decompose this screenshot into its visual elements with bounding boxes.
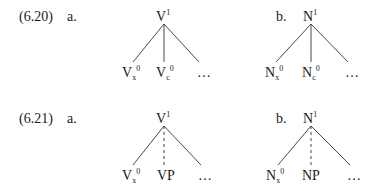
node-sub: x bbox=[275, 73, 279, 82]
tree-leaf: VP bbox=[157, 169, 175, 183]
edge-620b-right bbox=[311, 24, 348, 62]
subexample-label-a: a. bbox=[67, 112, 77, 126]
edge-620a-right bbox=[164, 24, 199, 62]
tree-leaf: NP bbox=[302, 169, 320, 183]
node-sup: 0 bbox=[136, 64, 140, 73]
node-sub: x bbox=[132, 73, 136, 82]
node-base: … bbox=[345, 65, 359, 80]
subexample-label-b: b. bbox=[276, 10, 287, 24]
node-sup: 1 bbox=[313, 8, 317, 17]
node-sub: c bbox=[312, 73, 316, 82]
edge-620b-left bbox=[276, 24, 311, 62]
node-base: V bbox=[156, 65, 166, 80]
tree-leaf: … bbox=[345, 66, 359, 80]
node-sup: 0 bbox=[136, 167, 140, 176]
node-sub: x bbox=[132, 176, 136, 185]
node-sup: 1 bbox=[166, 8, 170, 17]
tree-leaf: … bbox=[347, 169, 361, 183]
tree-leaf: Nc0 bbox=[302, 66, 320, 82]
node-base: … bbox=[197, 65, 211, 80]
node-base: … bbox=[347, 168, 361, 183]
edge-620a-left bbox=[133, 24, 164, 62]
subexample-label-b: b. bbox=[276, 112, 287, 126]
node-base: N bbox=[265, 65, 275, 80]
tree-leaf: Vx0 bbox=[122, 66, 140, 82]
edge-621a-right bbox=[164, 126, 201, 165]
node-sub: x bbox=[276, 176, 280, 185]
node-base: V bbox=[156, 9, 166, 24]
node-base: VP bbox=[157, 168, 175, 183]
node-sup: 1 bbox=[313, 110, 317, 119]
edge-621b-left bbox=[278, 126, 311, 165]
tree-root: V1 bbox=[156, 10, 170, 26]
edge-621b-right bbox=[311, 126, 350, 165]
example-number: (6.20) bbox=[19, 10, 53, 24]
node-sup: 0 bbox=[280, 167, 284, 176]
tree-root: N1 bbox=[303, 112, 317, 128]
node-base: N bbox=[302, 65, 312, 80]
subexample-label-a: a. bbox=[67, 10, 77, 24]
node-base: N bbox=[303, 111, 313, 126]
tree-root: V1 bbox=[156, 112, 170, 128]
tree-leaf: Nx0 bbox=[266, 169, 284, 185]
tree-leaf: Vx0 bbox=[122, 169, 140, 185]
node-sup: 0 bbox=[316, 64, 320, 73]
node-base: N bbox=[303, 9, 313, 24]
node-base: V bbox=[122, 168, 132, 183]
node-base: … bbox=[198, 168, 212, 183]
tree-edges bbox=[0, 0, 376, 191]
node-base: V bbox=[156, 111, 166, 126]
node-base: NP bbox=[302, 168, 320, 183]
node-base: V bbox=[122, 65, 132, 80]
example-number: (6.21) bbox=[19, 112, 53, 126]
tree-leaf: … bbox=[198, 169, 212, 183]
node-base: N bbox=[266, 168, 276, 183]
tree-leaf: Vc0 bbox=[156, 66, 174, 82]
node-sup: 1 bbox=[166, 110, 170, 119]
edge-621a-left bbox=[133, 126, 164, 165]
tree-root: N1 bbox=[303, 10, 317, 26]
node-sup: 0 bbox=[279, 64, 283, 73]
node-sup: 0 bbox=[170, 64, 174, 73]
tree-leaf: … bbox=[197, 66, 211, 80]
tree-leaf: Nx0 bbox=[265, 66, 283, 82]
node-sub: c bbox=[166, 73, 170, 82]
